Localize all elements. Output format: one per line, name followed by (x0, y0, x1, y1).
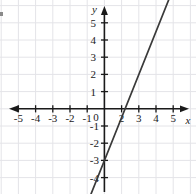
edge-marker (0, 12, 3, 16)
x-tick-label: 4 (153, 112, 159, 124)
x-tick-label: 5 (170, 112, 176, 124)
y-tick-label: -3 (90, 154, 100, 166)
y-tick-label: 4 (91, 34, 97, 46)
y-axis-label: y (91, 3, 97, 15)
graph-figure: -5 -4 -3 -2 -1 2 3 4 5 0 5 4 3 2 1 -1 -2… (0, 0, 196, 194)
y-tick-label: -2 (90, 137, 99, 149)
x-axis-label: x (185, 114, 191, 126)
y-tick-label: 1 (91, 86, 97, 98)
x-tick-label: -5 (14, 112, 24, 124)
coordinate-plane: -5 -4 -3 -2 -1 2 3 4 5 0 5 4 3 2 1 -1 -2… (0, 0, 196, 194)
x-tick-label: -2 (65, 112, 74, 124)
y-tick-label: 2 (91, 68, 97, 80)
x-tick-label: -4 (31, 112, 41, 124)
y-tick-label: 3 (91, 51, 97, 63)
y-tick-label: 5 (91, 17, 97, 29)
y-tick-label: -1 (90, 120, 99, 132)
x-tick-label: 3 (136, 112, 142, 124)
x-tick-label: -3 (48, 112, 58, 124)
